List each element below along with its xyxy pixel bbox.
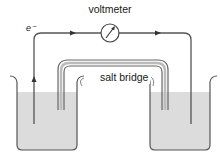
left-beaker-liquid	[17, 92, 77, 150]
salt-bridge-callout-right	[151, 77, 154, 86]
salt-bridge-label: salt bridge	[100, 71, 149, 83]
voltmeter-dial-icon	[101, 24, 119, 42]
salt-bridge-callout-left	[80, 78, 84, 86]
electron-flow-arrow-up-icon	[32, 76, 37, 82]
electron-flow-arrow-right-icon	[155, 31, 161, 36]
right-beaker-liquid	[150, 92, 210, 150]
electron-flow-arrow-right-icon	[70, 31, 76, 36]
electron-label: e⁻	[26, 23, 37, 33]
voltmeter-label: voltmeter	[88, 3, 132, 15]
electrochemical-cell-diagram: salt bridge voltmeter e⁻	[0, 0, 220, 158]
